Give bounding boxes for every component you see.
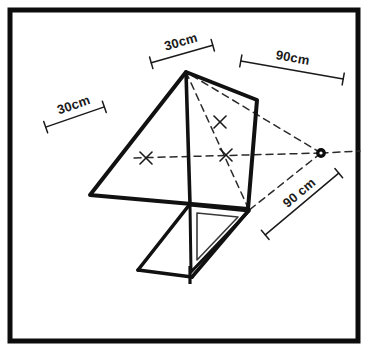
kite-perspective-diagram: 30cm 30cm 90cm bbox=[0, 0, 369, 352]
figure-canvas: 30cm 30cm 90cm bbox=[0, 0, 369, 352]
vanishing-point-centre bbox=[319, 151, 322, 154]
